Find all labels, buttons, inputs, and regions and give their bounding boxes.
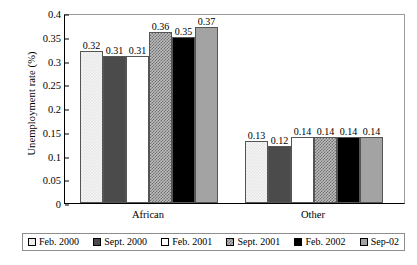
y-axis-tick-mark — [65, 15, 69, 16]
legend-label: Feb. 2000 — [39, 237, 79, 247]
y-axis-tick-mark — [65, 86, 69, 87]
y-axis-tick-label: 0 — [56, 200, 61, 211]
legend-swatch-icon — [226, 238, 234, 246]
legend-label: Sept. 2001 — [237, 237, 280, 247]
bar-slot: 0.12 — [268, 15, 291, 203]
y-axis-tick-mark — [65, 110, 69, 111]
legend-item[interactable]: Sep-02 — [360, 237, 399, 247]
bar-slot: 0.32 — [80, 15, 103, 203]
chart-legend: Feb. 2000Sept. 2000Feb. 2001Sept. 2001Fe… — [22, 233, 405, 251]
bar-value-label: 0.14 — [294, 127, 312, 137]
bar-value-label: 0.14 — [340, 127, 358, 137]
bar[interactable]: 0.14 — [291, 137, 314, 204]
legend-swatch-icon — [28, 238, 36, 246]
bar-value-label: 0.14 — [317, 127, 335, 137]
bar[interactable]: 0.37 — [195, 27, 218, 203]
bar-slot: 0.14 — [291, 15, 314, 203]
bar-group-bars: 0.130.120.140.140.140.14 — [240, 15, 388, 203]
bar[interactable]: 0.32 — [80, 51, 103, 203]
y-axis-tick-mark — [65, 133, 69, 134]
bar-group-bars: 0.320.310.310.360.350.37 — [75, 15, 223, 203]
bar[interactable]: 0.31 — [126, 56, 149, 203]
y-axis-tick-label: 0.4 — [48, 10, 61, 21]
bar-value-label: 0.31 — [129, 46, 147, 56]
x-axis-category-label: Other — [301, 209, 325, 220]
bar[interactable]: 0.36 — [149, 32, 172, 203]
bar-slot: 0.35 — [172, 15, 195, 203]
legend-label: Feb. 2002 — [305, 237, 345, 247]
legend-item[interactable]: Sept. 2001 — [226, 237, 280, 247]
legend-swatch-icon — [360, 238, 368, 246]
legend-item[interactable]: Feb. 2002 — [294, 237, 345, 247]
y-axis-tick-label: 0.35 — [43, 34, 61, 45]
legend-swatch-icon — [93, 238, 101, 246]
bar-value-label: 0.31 — [106, 46, 124, 56]
bar[interactable]: 0.14 — [314, 137, 337, 204]
legend-item[interactable]: Sept. 2000 — [93, 237, 147, 247]
bar-group: 0.320.310.310.360.350.37 — [75, 15, 223, 203]
legend-swatch-icon — [161, 238, 169, 246]
bar-slot: 0.36 — [149, 15, 172, 203]
bar-slot: 0.14 — [337, 15, 360, 203]
bar[interactable]: 0.14 — [360, 137, 383, 204]
legend-item[interactable]: Feb. 2001 — [161, 237, 212, 247]
bar-value-label: 0.14 — [363, 127, 381, 137]
y-axis-tick-mark — [65, 62, 69, 63]
bar-value-label: 0.36 — [152, 22, 170, 32]
bar-slot: 0.31 — [103, 15, 126, 203]
y-axis-tick-label: 0.05 — [43, 176, 61, 187]
y-axis-tick-mark — [65, 38, 69, 39]
plot-area: 00.050.10.150.20.250.30.350.4 0.320.310.… — [64, 14, 405, 204]
legend-item[interactable]: Feb. 2000 — [28, 237, 79, 247]
y-axis-title: Unemployment rate (%) — [26, 19, 37, 189]
y-axis-tick-label: 0.25 — [43, 81, 61, 92]
y-axis-tick-label: 0.1 — [48, 152, 61, 163]
bar-chart: Unemployment rate (%) 00.050.10.150.20.2… — [0, 0, 417, 265]
bar[interactable]: 0.12 — [268, 146, 291, 203]
bar-value-label: 0.32 — [83, 41, 101, 51]
bar-slot: 0.13 — [245, 15, 268, 203]
bar[interactable]: 0.14 — [337, 137, 360, 204]
legend-label: Sep-02 — [371, 237, 399, 247]
x-axis-category-label: African — [132, 209, 164, 220]
bar[interactable]: 0.13 — [245, 141, 268, 203]
y-axis-tick-label: 0.2 — [48, 105, 61, 116]
bar[interactable]: 0.35 — [172, 37, 195, 203]
y-axis-tick-mark — [65, 205, 69, 206]
y-axis-tick-label: 0.15 — [43, 129, 61, 140]
bar-value-label: 0.12 — [271, 136, 289, 146]
legend-swatch-icon — [294, 238, 302, 246]
y-axis-tick-mark — [65, 181, 69, 182]
bar-value-label: 0.13 — [248, 131, 266, 141]
y-axis-tick-mark — [65, 157, 69, 158]
y-axis-tick-label: 0.3 — [48, 57, 61, 68]
bar[interactable]: 0.31 — [103, 56, 126, 203]
bar-slot: 0.14 — [314, 15, 337, 203]
bar-group: 0.130.120.140.140.140.14 — [240, 15, 388, 203]
bar-slot: 0.31 — [126, 15, 149, 203]
bar-slot: 0.14 — [360, 15, 383, 203]
legend-label: Sept. 2000 — [104, 237, 147, 247]
legend-label: Feb. 2001 — [172, 237, 212, 247]
bar-slot: 0.37 — [195, 15, 218, 203]
bar-value-label: 0.35 — [175, 27, 193, 37]
bar-value-label: 0.37 — [198, 17, 216, 27]
